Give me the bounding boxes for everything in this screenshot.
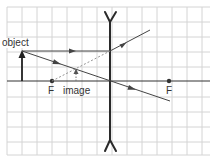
ray-arrow-icon — [52, 59, 61, 64]
ray-arrow-icon — [69, 49, 76, 54]
ray-parallel-refracted — [110, 30, 150, 51]
focal-label-left: F — [48, 86, 54, 96]
ray-diagram — [0, 0, 210, 157]
object-label: object — [2, 38, 29, 48]
image-label: image — [63, 86, 90, 96]
ray-arrow-icon — [127, 85, 136, 90]
focal-point-right — [167, 79, 171, 83]
virtual-ray-extension — [52, 51, 110, 81]
ray-arrow-icon — [120, 43, 127, 49]
focal-label-right: F — [166, 86, 172, 96]
